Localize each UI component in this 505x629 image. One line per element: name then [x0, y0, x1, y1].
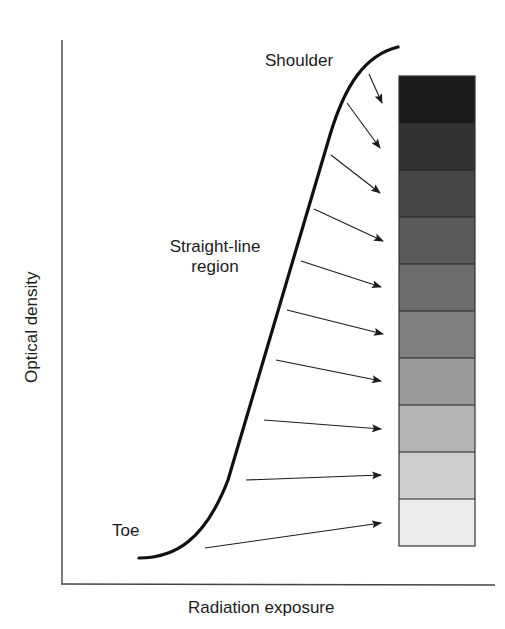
arrow-icon [369, 74, 382, 103]
wedge-step [399, 123, 475, 170]
wedge-step [399, 217, 475, 264]
x-axis [61, 584, 495, 585]
arrow-icon [205, 523, 381, 548]
wedge-step [399, 311, 475, 358]
y-axis-label: Optical density [22, 272, 42, 384]
straight-line-label-line1: Straight-line [159, 237, 271, 257]
toe-label: Toe [112, 521, 139, 541]
arrow-icon [347, 103, 380, 148]
wedge-step [399, 358, 475, 405]
wedge-step [399, 405, 475, 452]
x-axis-label: Radiation exposure [188, 598, 334, 618]
wedge-step [399, 264, 475, 311]
arrow-icon [264, 420, 381, 429]
wedge-step [399, 170, 475, 217]
wedge-step [399, 76, 475, 123]
wedge-step [399, 499, 475, 546]
straight-line-label: Straight-line region [159, 237, 271, 276]
arrow-icon [246, 475, 381, 480]
straight-line-label-line2: region [159, 257, 271, 277]
arrow-icon [276, 360, 381, 381]
shoulder-label: Shoulder [265, 51, 333, 71]
gray-step-wedge [399, 76, 475, 546]
exposure-arrows [205, 74, 383, 548]
characteristic-curve [139, 47, 398, 558]
arrow-icon [287, 310, 383, 334]
arrow-icon [301, 261, 381, 287]
arrow-icon [314, 209, 383, 241]
arrow-icon [331, 155, 380, 193]
wedge-step [399, 452, 475, 499]
characteristic-curve-figure [0, 0, 505, 629]
